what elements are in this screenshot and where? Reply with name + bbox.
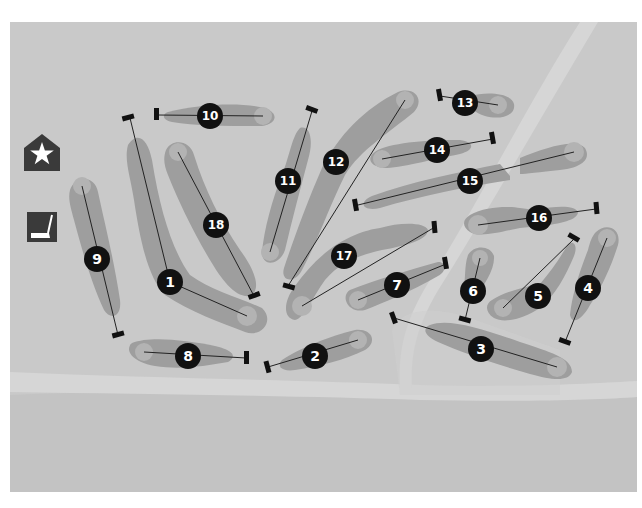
hole-marker-4[interactable]: 4 [575,275,601,301]
hole-marker-15[interactable]: 15 [457,168,483,194]
svg-text:6: 6 [468,283,478,299]
hole-marker-1[interactable]: 1 [157,269,183,295]
hole-marker-3[interactable]: 3 [468,336,494,362]
svg-text:16: 16 [531,211,548,225]
svg-text:2: 2 [310,348,320,364]
hole-marker-2[interactable]: 2 [302,343,328,369]
lower-area [10,390,637,492]
hole-marker-10[interactable]: 10 [197,103,223,129]
svg-text:18: 18 [208,218,225,232]
hole-marker-16[interactable]: 16 [526,205,552,231]
svg-text:5: 5 [533,288,543,304]
svg-text:13: 13 [457,96,474,110]
svg-text:15: 15 [462,174,479,188]
svg-text:9: 9 [92,251,102,267]
svg-text:1: 1 [165,274,175,290]
hole-marker-7[interactable]: 7 [384,272,410,298]
hole-marker-17[interactable]: 17 [331,243,357,269]
svg-text:12: 12 [328,155,345,169]
svg-text:7: 7 [392,277,402,293]
hole-marker-13[interactable]: 13 [452,90,478,116]
hole-marker-18[interactable]: 18 [203,212,229,238]
hole-marker-8[interactable]: 8 [175,343,201,369]
hole-marker-11[interactable]: 11 [275,168,301,194]
course-map: 1 2 3 4 5 6 7 8 9 10 11 12 13 14 15 16 1… [10,22,637,492]
svg-text:10: 10 [202,109,219,123]
hole-marker-5[interactable]: 5 [525,283,551,309]
hole-marker-12[interactable]: 12 [323,149,349,175]
hole-marker-9[interactable]: 9 [84,246,110,272]
svg-text:4: 4 [583,280,593,296]
svg-text:14: 14 [429,143,446,157]
hole-marker-6[interactable]: 6 [460,278,486,304]
hole-marker-14[interactable]: 14 [424,137,450,163]
svg-text:17: 17 [336,249,353,263]
putting-green-icon[interactable] [27,212,57,242]
svg-text:3: 3 [476,341,486,357]
svg-text:8: 8 [183,348,193,364]
svg-text:11: 11 [280,174,297,188]
